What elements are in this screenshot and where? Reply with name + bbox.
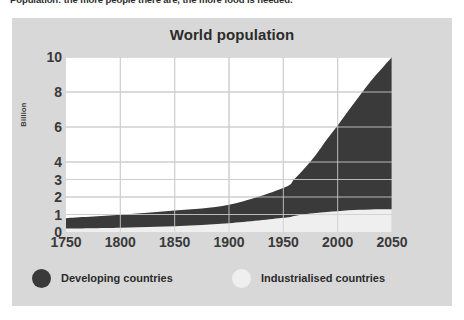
legend-swatch-circle-icon [32,269,51,288]
legend-item-industrialised[interactable]: Industrialised countries [232,266,385,290]
plot-area [66,57,392,232]
y-tick-4: 4 [28,155,62,169]
y-tick-2: 2 [28,190,62,204]
y-tick-6: 6 [28,120,62,134]
x-tick-2000: 2000 [308,235,368,249]
x-tick-1850: 1850 [145,235,205,249]
x-tick-1900: 1900 [199,235,259,249]
legend-label: Industrialised countries [261,272,385,284]
x-tick-2050: 2050 [362,235,422,249]
legend-swatch-circle-icon [232,269,251,288]
caption-text: Population: the more people there are, t… [10,0,292,5]
y-tick-10: 10 [28,50,62,64]
x-axis-tick-labels: 1750180018501900195020002050 [66,235,392,257]
y-tick-3: 3 [28,173,62,187]
x-tick-1750: 1750 [36,235,96,249]
chart-panel: World population Billion 012346810 17501… [12,18,452,306]
legend-item-developing[interactable]: Developing countries [32,266,173,290]
y-tick-1: 1 [28,208,62,222]
legend-label: Developing countries [61,272,173,284]
x-tick-1950: 1950 [253,235,313,249]
y-tick-8: 8 [28,85,62,99]
chart-legend: Developing countriesIndustrialised count… [32,266,442,294]
chart-title: World population [12,26,452,43]
population-area-chart [66,57,392,232]
caption-strip: Population: the more people there are, t… [0,0,464,12]
y-axis-tick-labels: 012346810 [22,57,62,232]
x-tick-1800: 1800 [90,235,150,249]
